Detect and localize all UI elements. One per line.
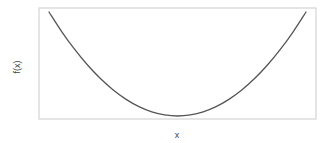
data-curve: [49, 12, 306, 116]
chart: x f(x): [0, 0, 328, 143]
x-axis-label: x: [175, 130, 180, 140]
y-axis-label: f(x): [12, 61, 22, 74]
plot-frame: [39, 8, 316, 119]
